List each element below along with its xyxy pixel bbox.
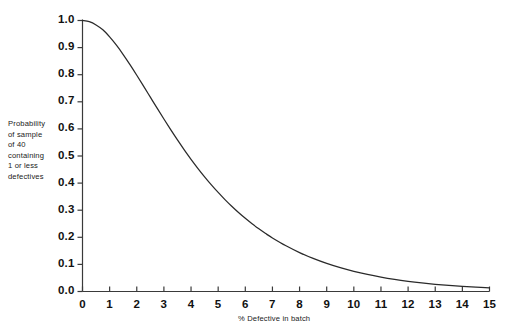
plot-area <box>0 0 514 335</box>
axes <box>78 20 490 292</box>
series-line <box>83 21 490 288</box>
data-series <box>83 21 490 288</box>
oc-curve-figure: Probability of sample of 40 containing 1… <box>0 0 514 335</box>
